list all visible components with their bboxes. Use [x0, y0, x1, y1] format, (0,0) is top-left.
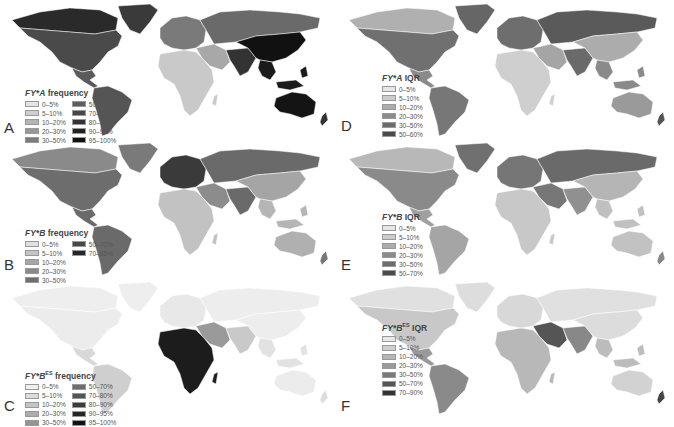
legend-swatch — [72, 241, 86, 247]
legend-item: 50–60% — [382, 130, 423, 138]
region-australia — [611, 92, 653, 118]
legend-item: 0–5% — [25, 240, 66, 248]
legend-label: 50–70% — [399, 380, 423, 387]
map-panel-c: FY*BES frequency 0–5%5–10%10–20%20–30%30… — [0, 278, 335, 417]
legend-swatch — [72, 101, 86, 107]
legend-metric: IQR — [410, 323, 427, 333]
map-panel-f: FY*BES IQR 0–5%5–10%10–20%20–30%30–50%50… — [337, 278, 672, 417]
panel-letter: E — [341, 257, 351, 272]
map-panel-a: FY*A frequency 0–5%5–10%10–20%20–30%30–5… — [0, 0, 335, 139]
legend-item: 70–90% — [382, 389, 423, 397]
legend-label: 50–70% — [89, 383, 113, 390]
legend-swatch — [382, 252, 396, 258]
legend-metric: IQR — [402, 212, 419, 222]
legend-swatch — [382, 95, 396, 101]
legend-label: 80–90% — [89, 119, 113, 126]
legend-item: 20–30% — [382, 251, 423, 259]
region-southeast-asia — [258, 338, 308, 368]
legend-item: 50–70% — [72, 240, 113, 248]
map-panel-b: FY*B frequency 0–5%5–10%10–20%20–30%30–5… — [0, 139, 335, 278]
legend-metric: IQR — [402, 73, 419, 83]
legend-swatch — [25, 402, 39, 408]
legend-swatch — [25, 384, 39, 390]
region-greenland — [118, 282, 158, 312]
legend-label: 50–70% — [399, 270, 423, 277]
region-north-america — [20, 306, 122, 350]
region-southeast-asia — [595, 199, 645, 229]
legend-label: 90–95% — [89, 410, 113, 417]
legend-column: 0–5%5–10%10–20%20–30%30–50%50–70%70–90% — [382, 335, 423, 397]
legend-item: 0–5% — [382, 335, 423, 343]
legend-item: 5–10% — [25, 109, 66, 117]
legend-gene-name: FY*B — [382, 323, 402, 333]
legend-swatch — [382, 243, 396, 249]
legend-label: 50–70% — [89, 101, 113, 108]
legend-label: 5–10% — [399, 95, 419, 102]
legend-swatch — [25, 101, 39, 107]
region-southeast-asia — [595, 338, 645, 368]
map-legend: FY*A IQR 0–5%5–10%10–20%20–30%30–50%50–6… — [382, 73, 423, 138]
region-greenland — [455, 4, 495, 34]
legend-item: 10–20% — [25, 258, 66, 266]
legend-label: 90–95% — [89, 128, 113, 135]
legend-swatch — [382, 86, 396, 92]
legend-swatch — [72, 250, 86, 256]
legend-item: 30–50% — [25, 419, 66, 427]
legend-item: 50–70% — [382, 380, 423, 388]
panel-letter: B — [4, 257, 14, 272]
legend-item: 10–20% — [25, 401, 66, 409]
region-australia — [274, 92, 316, 118]
region-north-america — [357, 28, 459, 72]
legend-metric: frequency — [45, 88, 88, 98]
legend-item: 10–20% — [25, 118, 66, 126]
region-southeast-asia — [595, 60, 645, 90]
legend-item: 95–100% — [72, 419, 116, 427]
legend-label: 10–20% — [42, 401, 66, 408]
region-europe — [497, 294, 543, 328]
legend-swatch — [25, 241, 39, 247]
legend-gene-superscript: ES — [402, 322, 409, 328]
legend-label: 20–30% — [42, 268, 66, 275]
legend-swatch — [382, 354, 396, 360]
legend-label: 0–5% — [42, 383, 59, 390]
legend-swatch — [72, 402, 86, 408]
region-greenland — [118, 143, 158, 173]
legend-item: 10–20% — [382, 103, 423, 111]
map-legend: FY*A frequency 0–5%5–10%10–20%20–30%30–5… — [25, 88, 116, 144]
legend-item: 80–90% — [72, 401, 116, 409]
region-new-zealand — [320, 251, 328, 265]
legend-columns: 0–5%5–10%10–20%20–30%30–50%50–70%70–90% — [382, 335, 427, 397]
legend-gene-superscript: ES — [45, 370, 52, 376]
legend-swatch — [382, 234, 396, 240]
legend-label: 70–80% — [89, 110, 113, 117]
region-north-america — [20, 167, 122, 211]
legend-columns: 0–5%5–10%10–20%20–30%30–50%50–60% — [382, 85, 423, 138]
legend-metric: frequency — [45, 228, 88, 238]
legend-label: 5–10% — [42, 250, 62, 257]
legend-title: FY*B IQR — [382, 212, 423, 222]
region-africa — [549, 233, 555, 245]
legend-swatch — [382, 363, 396, 369]
legend-label: 0–5% — [42, 241, 59, 248]
map-panel-d: FY*A IQR 0–5%5–10%10–20%20–30%30–50%50–6… — [337, 0, 672, 139]
region-new-zealand — [320, 112, 328, 126]
legend-item: 80–90% — [72, 118, 116, 126]
legend-swatch — [382, 113, 396, 119]
legend-item: 70–80% — [72, 392, 116, 400]
region-africa — [549, 94, 555, 106]
legend-item: 20–30% — [25, 267, 66, 275]
legend-label: 0–5% — [399, 86, 416, 93]
legend-label: 10–20% — [399, 243, 423, 250]
legend-item: 5–10% — [25, 392, 66, 400]
legend-swatch — [72, 393, 86, 399]
panel-letter: F — [341, 398, 350, 413]
region-south-america — [429, 364, 469, 414]
legend-gene-name: FY*B — [25, 371, 45, 381]
legend-swatch — [72, 110, 86, 116]
legend-item: 0–5% — [382, 85, 423, 93]
legend-item: 20–30% — [25, 410, 66, 418]
legend-swatch — [382, 225, 396, 231]
legend-swatch — [382, 261, 396, 267]
region-north-america — [20, 28, 122, 72]
legend-label: 70–85% — [89, 250, 113, 257]
